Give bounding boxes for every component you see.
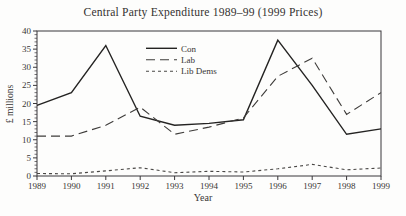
x-axis-tick-label: 1999: [372, 181, 391, 191]
x-axis-tick-label: 1998: [338, 181, 357, 191]
x-axis-label: Year: [0, 192, 406, 203]
y-axis-tick-label: 35: [22, 44, 32, 54]
x-axis-tick-label: 1995: [234, 181, 253, 191]
chart-figure: Central Party Expenditure 1989–99 (1999 …: [0, 0, 406, 216]
series-line-lib-dems: [37, 164, 381, 173]
y-axis-tick-label: 20: [22, 99, 32, 109]
y-axis-tick-label: 10: [22, 135, 32, 145]
x-axis-tick-label: 1989: [28, 181, 47, 191]
legend-label-con: Con: [181, 44, 197, 54]
y-axis-tick-label: 0: [27, 171, 32, 181]
legend-label-lib-dems: Lib Dems: [181, 66, 217, 76]
x-axis-tick-label: 1993: [166, 181, 185, 191]
y-axis-tick-label: 15: [22, 117, 32, 127]
y-axis-tick-label: 25: [22, 80, 32, 90]
x-axis-tick-label: 1992: [131, 181, 149, 191]
plot-frame: [37, 31, 381, 176]
x-axis-tick-label: 1990: [62, 181, 81, 191]
x-axis-tick-label: 1997: [303, 181, 322, 191]
y-axis-tick-label: 40: [22, 26, 32, 36]
x-axis-tick-label: 1994: [200, 181, 219, 191]
x-axis-tick-label: 1996: [269, 181, 288, 191]
y-axis-tick-label: 30: [22, 62, 32, 72]
y-axis-tick-label: 5: [27, 153, 32, 163]
plot-area: 0510152025303540198919901991199219931994…: [0, 0, 406, 216]
x-axis-tick-label: 1991: [97, 181, 115, 191]
legend-label-lab: Lab: [181, 55, 195, 65]
